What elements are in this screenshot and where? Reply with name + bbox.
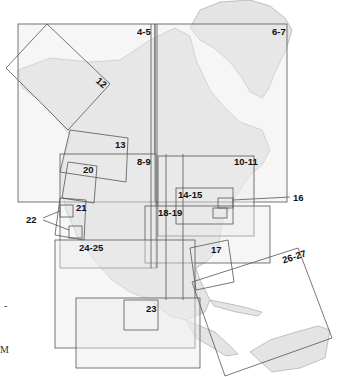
label-page-8-9[interactable]: 8-9 bbox=[137, 157, 151, 167]
edge-dash-mark: - bbox=[4, 300, 7, 311]
label-page-23[interactable]: 23 bbox=[146, 304, 157, 314]
label-page-21[interactable]: 21 bbox=[76, 203, 87, 213]
label-page-20[interactable]: 20 bbox=[83, 165, 94, 175]
label-page-24-25[interactable]: 24-25 bbox=[79, 243, 103, 253]
south-america-shape bbox=[250, 326, 330, 372]
label-page-18-19[interactable]: 18-19 bbox=[158, 208, 182, 218]
label-page-17[interactable]: 17 bbox=[211, 245, 222, 255]
page-frames bbox=[18, 24, 287, 368]
index-map bbox=[0, 0, 338, 377]
caribbean-islands-shape bbox=[210, 300, 262, 316]
label-page-10-11[interactable]: 10-11 bbox=[234, 157, 258, 167]
frame-bottom bbox=[76, 298, 200, 368]
label-page-14-15[interactable]: 14-15 bbox=[178, 190, 202, 200]
label-page-4-5[interactable]: 4-5 bbox=[137, 27, 151, 37]
edge-letter-mark: M bbox=[0, 344, 9, 355]
label-page-16[interactable]: 16 bbox=[293, 193, 304, 203]
label-page-6-7[interactable]: 6-7 bbox=[272, 27, 286, 37]
label-page-13[interactable]: 13 bbox=[115, 140, 126, 150]
label-page-22[interactable]: 22 bbox=[26, 215, 37, 225]
